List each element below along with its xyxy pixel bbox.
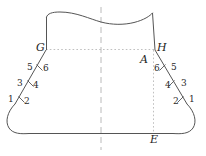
- right-tick-label-1: 1: [189, 95, 195, 104]
- right-diagonal-flank: [155, 50, 187, 104]
- point-label-a: A: [140, 54, 148, 65]
- geometric-figure: G H A E 1 2 3 4 5 6 1 2 3 4 5 6: [0, 0, 206, 156]
- right-tick-label-5: 5: [171, 63, 177, 72]
- left-tick-label-1: 1: [8, 95, 14, 104]
- left-tick-label-6: 6: [43, 64, 49, 73]
- bottom-left-rounded-corner: [7, 104, 101, 134]
- figure-drawing: [0, 0, 206, 156]
- top-wavy-curve: [47, 12, 153, 24]
- left-tick-label-2: 2: [24, 97, 30, 106]
- right-tick-label-2: 2: [173, 97, 179, 106]
- left-tick-mark-3: [37, 65, 43, 71]
- left-diagonal-flank: [15, 50, 46, 104]
- left-tick-label-3: 3: [17, 79, 23, 88]
- point-label-h: H: [157, 42, 167, 53]
- left-tick-label-5: 5: [27, 63, 33, 72]
- bottom-right-rounded-corner: [101, 104, 195, 134]
- right-vertical-wall: [153, 13, 156, 50]
- right-tick-label-6: 6: [154, 64, 160, 73]
- point-label-g: G: [36, 42, 45, 53]
- right-tick-label-3: 3: [181, 79, 187, 88]
- left-tick-label-4: 4: [33, 81, 39, 90]
- right-tick-label-4: 4: [165, 81, 171, 90]
- right-tick-mark-3: [160, 65, 166, 71]
- point-label-e: E: [150, 134, 158, 145]
